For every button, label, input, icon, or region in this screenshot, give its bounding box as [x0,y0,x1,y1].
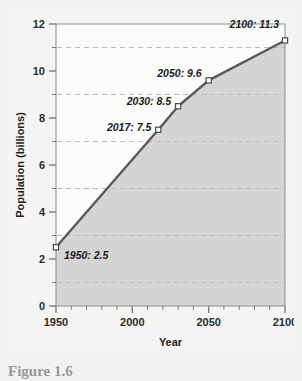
y-tick-label-8: 8 [39,112,45,124]
figure-caption-text: Figure 1.6 [8,362,208,381]
x-axis-title: Year [159,336,183,348]
figure-container: 024681012 1950200020502100 1950: 2.52017… [0,0,302,381]
y-axis-tick-labels: 024681012 [33,18,46,312]
y-tick-label-10: 10 [33,65,45,77]
x-tick-label-2100: 2100 [273,316,294,328]
data-marker-1950 [53,245,58,250]
x-axis-tick-labels: 1950200020502100 [44,316,294,328]
y-tick-label-2: 2 [39,253,45,265]
x-tick-label-2000: 2000 [120,316,144,328]
data-marker-2100 [282,38,287,43]
y-axis-ticks [49,24,56,306]
y-tick-label-6: 6 [39,159,45,171]
data-marker-2050 [206,78,211,83]
y-axis-title: Population (billions) [14,112,26,218]
x-axis-ticks [56,306,285,313]
y-tick-label-12: 12 [33,18,45,30]
population-chart: 024681012 1950200020502100 1950: 2.52017… [8,6,294,350]
x-tick-label-1950: 1950 [44,316,68,328]
annotation-2017: 2017: 7.5 [106,121,152,133]
annotation-2050: 2050: 9.6 [156,67,202,79]
annotation-2100: 2100: 11.3 [229,18,280,30]
annotation-2030: 2030: 8.5 [126,95,172,107]
data-marker-2017 [156,127,161,132]
y-tick-label-4: 4 [39,206,46,218]
y-tick-label-0: 0 [39,300,45,312]
figure-caption: Figure 1.6 [8,362,208,381]
chart-card: 024681012 1950200020502100 1950: 2.52017… [8,6,294,350]
annotation-1950: 1950: 2.5 [64,249,109,261]
x-tick-label-2050: 2050 [196,316,220,328]
data-marker-2030 [176,104,181,109]
